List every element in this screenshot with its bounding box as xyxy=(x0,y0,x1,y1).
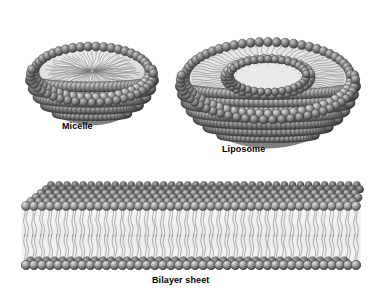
lipid-structures-diagram xyxy=(0,0,372,291)
bilayer-sheet-label: Bilayer sheet xyxy=(152,275,209,285)
bilayer-sheet-structure xyxy=(21,181,363,269)
liposome-label: Liposome xyxy=(222,144,265,154)
micelle-label: Micelle xyxy=(62,121,93,131)
